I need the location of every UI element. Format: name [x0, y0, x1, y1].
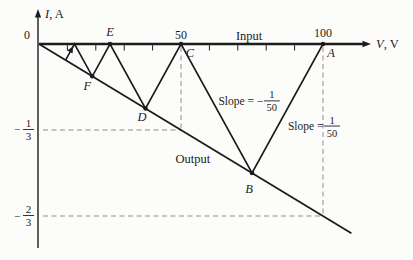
- x-axis-title: V, V: [376, 37, 399, 51]
- y-axis-title: I, A: [44, 7, 64, 21]
- point-label-A: A: [326, 46, 335, 60]
- point-dot-B: [250, 171, 255, 176]
- x-tick-label-100: 100: [314, 26, 332, 40]
- point-dot-E: [108, 42, 113, 47]
- point-label-B: B: [245, 182, 253, 196]
- slope-negative-label-fraction-denominator: 50: [267, 102, 278, 113]
- y-guide-fraction-1-numerator: 2: [26, 203, 32, 215]
- y-guide-minus-0: −: [14, 123, 20, 135]
- x-tick-label-0: 0: [24, 28, 30, 42]
- point-dot-A: [321, 42, 326, 47]
- slope-negative-label-text: Slope = −: [218, 95, 263, 108]
- slope-positive-label-fraction-denominator: 50: [327, 128, 338, 139]
- bergeron-plot-canvas: −13−23ABCDEF050100I, AV, VInputOutputSlo…: [0, 0, 413, 260]
- y-guide-fraction-1-denominator: 3: [26, 216, 32, 228]
- iv-characteristic-figure: −13−23ABCDEF050100I, AV, VInputOutputSlo…: [0, 0, 413, 260]
- y-guide-fraction-0-denominator: 3: [26, 130, 32, 142]
- slope-negative-label-fraction-numerator: 1: [269, 89, 274, 100]
- point-label-D: D: [136, 110, 146, 124]
- output-label: Output: [176, 152, 211, 166]
- output-line: [39, 44, 351, 233]
- y-guide-minus-1: −: [14, 210, 20, 222]
- point-label-E: E: [105, 25, 114, 39]
- input-label: Input: [236, 29, 263, 43]
- point-label-F: F: [82, 79, 91, 93]
- point-label-C: C: [186, 46, 195, 60]
- y-guide-fraction-0-numerator: 1: [26, 117, 32, 129]
- slope-positive-label-text: Slope =: [288, 120, 324, 133]
- point-dot-C: [179, 42, 184, 47]
- x-tick-label-50: 50: [175, 28, 187, 42]
- slope-positive-label-fraction-numerator: 1: [329, 115, 334, 126]
- v-axis-arrowhead: [363, 41, 372, 47]
- i-axis-arrowhead: [35, 9, 41, 18]
- point-dot-F: [90, 74, 95, 79]
